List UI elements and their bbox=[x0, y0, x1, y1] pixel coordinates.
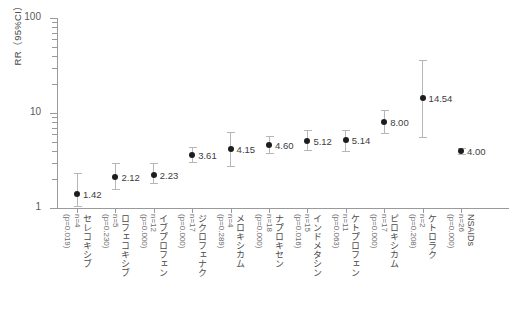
data-value-label: 5.14 bbox=[352, 135, 371, 146]
y-axis-tick-label: 10 bbox=[30, 106, 41, 117]
error-bar-cap-lower bbox=[342, 151, 350, 152]
y-axis-minor-tick bbox=[52, 163, 57, 164]
data-point-marker[interactable] bbox=[420, 95, 426, 101]
category-name: セレコキシブ bbox=[82, 214, 91, 268]
x-axis-tick bbox=[154, 208, 155, 213]
category-name: イブプロフェン bbox=[158, 214, 167, 277]
data-value-label: 2.23 bbox=[160, 169, 179, 180]
error-bar-cap-upper bbox=[112, 163, 120, 164]
category-p-value: (p=0.000) bbox=[370, 214, 378, 248]
data-value-label: 2.12 bbox=[121, 171, 140, 182]
x-axis-tick bbox=[115, 208, 116, 213]
y-axis-minor-tick bbox=[52, 27, 57, 28]
data-value-label: 14.54 bbox=[429, 92, 453, 103]
y-axis-minor-tick bbox=[52, 68, 57, 69]
category-sample-size: n=18 bbox=[264, 214, 272, 232]
y-axis-major-tick: 100 bbox=[50, 18, 57, 19]
data-value-label: 8.00 bbox=[390, 117, 409, 128]
data-point-marker[interactable] bbox=[74, 191, 80, 197]
error-bar-cap-lower bbox=[227, 166, 235, 167]
data-value-label: 4.00 bbox=[467, 145, 486, 156]
forest-plot-figure: RR（95%CI） 1101001.422.122.233.614.154.60… bbox=[0, 0, 516, 312]
category-sample-size: n=4 bbox=[226, 214, 234, 228]
error-bar-cap-lower bbox=[419, 137, 427, 138]
x-axis-category-label: NSAIDsn=26(p=0.000) bbox=[438, 214, 484, 306]
data-point-marker[interactable] bbox=[381, 119, 387, 125]
category-sample-size: n=11 bbox=[341, 214, 349, 231]
error-bar bbox=[77, 173, 78, 206]
y-axis-major-tick: 10 bbox=[50, 113, 57, 114]
y-axis-minor-tick bbox=[52, 56, 57, 57]
category-name: インドメタシン bbox=[312, 214, 321, 277]
x-axis-tick bbox=[269, 208, 270, 213]
category-sample-size: n=26 bbox=[456, 214, 464, 232]
category-sample-size: n=17 bbox=[379, 214, 387, 232]
category-name: メロキシカム bbox=[235, 214, 244, 268]
category-name: NSAIDs bbox=[466, 214, 475, 246]
x-axis-tick bbox=[77, 208, 78, 213]
data-point-marker[interactable] bbox=[189, 152, 195, 158]
error-bar-cap-lower bbox=[458, 154, 466, 155]
error-bar-cap-lower bbox=[74, 206, 82, 207]
error-bar-cap-upper bbox=[342, 130, 350, 131]
x-axis-tick bbox=[231, 208, 232, 213]
category-p-value: (p=0.000) bbox=[255, 214, 263, 248]
y-axis-minor-tick bbox=[52, 39, 57, 40]
x-axis-tick bbox=[346, 208, 347, 213]
category-p-value: (p=0.000) bbox=[140, 214, 148, 248]
category-sample-size: n=12 bbox=[149, 214, 157, 232]
x-axis-tick bbox=[192, 208, 193, 213]
error-bar-cap-upper bbox=[419, 60, 427, 61]
data-value-label: 5.12 bbox=[313, 135, 332, 146]
category-name: ロフェコキシブ bbox=[120, 214, 129, 277]
category-sample-size: n=15 bbox=[303, 214, 311, 232]
category-name: ピロキシカム bbox=[389, 214, 398, 268]
y-axis-minor-tick bbox=[52, 179, 57, 180]
category-p-value: (p=0.019) bbox=[63, 214, 71, 248]
data-value-label: 1.42 bbox=[83, 188, 102, 199]
x-axis-line bbox=[57, 208, 509, 209]
y-axis-minor-tick bbox=[52, 151, 57, 152]
data-point-marker[interactable] bbox=[343, 137, 349, 143]
error-bar-cap-upper bbox=[227, 132, 235, 133]
category-p-value: (p=0.230) bbox=[101, 214, 109, 248]
error-bar-cap-lower bbox=[112, 189, 120, 190]
data-point-marker[interactable] bbox=[266, 142, 272, 148]
category-name: ケトプロフェン bbox=[350, 214, 359, 277]
error-bar-cap-lower bbox=[304, 150, 312, 151]
error-bar-cap-upper bbox=[74, 173, 82, 174]
category-p-value: (p=0.016) bbox=[293, 214, 301, 248]
data-point-marker[interactable] bbox=[112, 174, 118, 180]
data-point-marker[interactable] bbox=[458, 148, 464, 154]
category-p-value: (p=0.289) bbox=[216, 214, 224, 248]
category-name: ジクロフェナク bbox=[197, 214, 206, 277]
x-axis-tick bbox=[423, 208, 424, 213]
error-bar-cap-lower bbox=[150, 183, 158, 184]
plot-area: 1101001.422.122.233.614.154.605.125.148.… bbox=[57, 18, 509, 208]
category-sample-size: n=17 bbox=[187, 214, 195, 232]
category-name: ケトロラク bbox=[427, 214, 436, 259]
y-axis-minor-tick bbox=[52, 84, 57, 85]
y-axis-minor-tick bbox=[52, 122, 57, 123]
y-axis-tick-label: 1 bbox=[35, 201, 41, 212]
error-bar-cap-upper bbox=[304, 130, 312, 131]
x-axis-tick bbox=[384, 208, 385, 213]
y-axis-minor-tick bbox=[52, 47, 57, 48]
y-axis-tick-label: 100 bbox=[24, 11, 41, 22]
x-axis-tick bbox=[307, 208, 308, 213]
category-p-value: (p=0.000) bbox=[178, 214, 186, 248]
y-axis-label: RR（95%CI） bbox=[10, 0, 24, 88]
y-axis-minor-tick bbox=[52, 117, 57, 118]
data-point-marker[interactable] bbox=[151, 172, 157, 178]
data-point-marker[interactable] bbox=[228, 146, 234, 152]
error-bar-cap-lower bbox=[381, 133, 389, 134]
y-axis-minor-tick bbox=[52, 22, 57, 23]
y-axis-minor-tick bbox=[52, 142, 57, 143]
y-axis-minor-tick bbox=[52, 128, 57, 129]
category-sample-size: n=4 bbox=[72, 214, 80, 228]
category-sample-size: n=5 bbox=[111, 214, 119, 228]
category-sample-size: n=2 bbox=[418, 214, 426, 228]
error-bar-cap-lower bbox=[266, 153, 274, 154]
data-point-marker[interactable] bbox=[304, 138, 310, 144]
error-bar-cap-upper bbox=[266, 136, 274, 137]
